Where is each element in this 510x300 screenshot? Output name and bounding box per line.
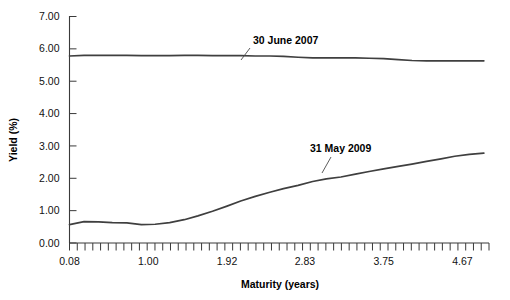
x-tick-label: 1.00: [138, 255, 159, 267]
x-tick-label: 2.83: [295, 255, 316, 267]
plot-area: 7.006.005.004.003.002.001.000.00 0.081.0…: [39, 10, 489, 267]
x-tick-label: 3.75: [373, 255, 394, 267]
y-tick-label: 4.00: [39, 107, 60, 119]
x-tick-label: 0.08: [59, 255, 80, 267]
x-axis-title: Maturity (years): [241, 278, 319, 290]
y-axis-ticks: [70, 17, 77, 244]
series-lines: [70, 55, 484, 224]
x-tick-label: 1.92: [217, 255, 238, 267]
annotation-leader-line: [241, 48, 250, 60]
y-tick-label: 3.00: [39, 140, 60, 152]
series-line: [70, 55, 484, 61]
x-axis-tick-labels: 0.081.001.922.833.754.67: [59, 255, 473, 267]
y-tick-label: 7.00: [39, 10, 60, 22]
y-tick-label: 1.00: [39, 204, 60, 216]
y-axis-title: Yield (%): [7, 118, 19, 162]
y-tick-label: 0.00: [39, 237, 60, 249]
y-axis-tick-labels: 7.006.005.004.003.002.001.000.00: [39, 10, 60, 249]
series-line: [70, 153, 484, 225]
x-axis-minor-ticks: [70, 243, 490, 251]
y-tick-label: 2.00: [39, 172, 60, 184]
chart-canvas: 7.006.005.004.003.002.001.000.00 0.081.0…: [0, 0, 510, 300]
y-tick-label: 5.00: [39, 75, 60, 87]
annotation-label: 30 June 2007: [253, 34, 319, 46]
series-annotations: 30 June 200731 May 2009: [241, 34, 371, 173]
yield-curve-chart: 7.006.005.004.003.002.001.000.00 0.081.0…: [0, 0, 510, 300]
annotation-leader-line: [322, 157, 331, 173]
y-tick-label: 6.00: [39, 42, 60, 54]
annotation-label: 31 May 2009: [310, 142, 371, 154]
x-tick-label: 4.67: [452, 255, 473, 267]
